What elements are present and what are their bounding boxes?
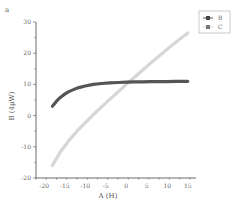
legend-marker-b [206,16,210,20]
y-tick-label: 0 [27,112,31,119]
legend: BC [199,11,230,33]
x-tick-label: -20 [39,182,49,189]
x-tick-label: 10 [163,182,171,189]
line-chart: -20-15-10-5051015-20-100102030A (H)B (4μ… [0,0,233,212]
y-axis-label: B (4μW) [8,91,16,120]
x-tick-label: 15 [184,182,192,189]
y-tick-label: 10 [23,80,31,87]
plot-area [52,33,187,166]
legend-marker-c [206,25,210,29]
legend-box [199,11,230,33]
legend-label-c: C [218,23,223,30]
y-tick-label: -20 [21,174,31,181]
legend-label-b: B [218,14,223,21]
x-tick-label: 0 [124,182,128,189]
y-tick-label: -10 [21,143,31,150]
x-tick-label: -15 [60,182,70,189]
x-tick-label: -10 [80,182,90,189]
series-b-line [52,81,187,106]
x-tick-label: -5 [103,182,109,189]
y-tick-label: 20 [23,49,31,56]
x-tick-label: 5 [145,182,149,189]
axes: -20-15-10-5051015-20-100102030A (H)B (4μ… [8,18,196,200]
x-axis-label: A (H) [98,192,118,200]
y-tick-label: 30 [23,18,31,25]
series-c-line [52,33,187,166]
